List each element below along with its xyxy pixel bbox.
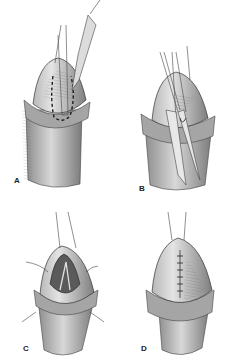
panel-c-drawing bbox=[22, 212, 104, 355]
panel-label-a: A bbox=[14, 177, 20, 185]
panel-label-d: D bbox=[141, 345, 147, 353]
panel-label-b: B bbox=[139, 185, 145, 193]
panel-a-drawing bbox=[24, 0, 100, 187]
surgical-figure: A B C D bbox=[0, 0, 228, 361]
panel-label-c: C bbox=[23, 345, 29, 353]
panel-d-drawing bbox=[146, 212, 214, 355]
illustration-canvas bbox=[0, 0, 228, 361]
panel-b-drawing bbox=[141, 46, 215, 190]
